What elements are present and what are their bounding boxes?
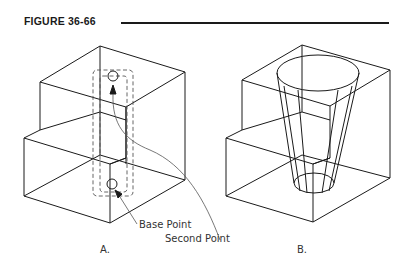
panel-a-block xyxy=(24,46,185,223)
panel-b-block xyxy=(226,45,390,222)
up-arrow-icon xyxy=(110,85,116,94)
panel-b-label: B. xyxy=(297,244,307,255)
arrow-icon xyxy=(115,190,122,198)
cone-top-ellipse xyxy=(277,55,359,91)
base-point-label: Base Point xyxy=(139,219,191,230)
base-point-circle xyxy=(107,179,117,189)
figure-canvas: Base Point Second Point A. B. xyxy=(0,0,410,269)
second-point-label: Second Point xyxy=(165,233,230,244)
cone xyxy=(277,55,359,193)
panel-a-label: A. xyxy=(100,244,110,255)
base-point-marker xyxy=(107,179,137,224)
